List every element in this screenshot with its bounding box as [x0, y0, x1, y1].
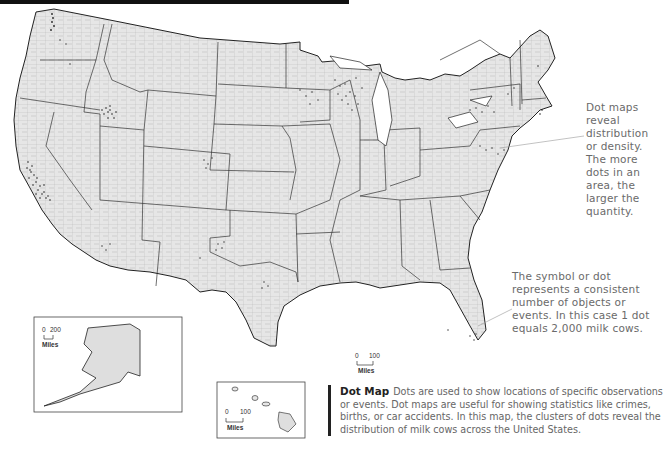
callout-1-leader [500, 136, 584, 148]
hawaii-scale-unit: Miles [227, 424, 243, 431]
conus-scale-end: 100 [369, 352, 380, 359]
hawaii-scale-end: 100 [240, 408, 251, 415]
caption-title: Dot Map [340, 385, 389, 397]
callout-density: Dot maps reveal distribution or density.… [586, 101, 656, 218]
alaska-scale-end: 200 [50, 326, 61, 333]
alaska-scale-unit: Miles [42, 341, 58, 348]
hawaii-scale-start: 0 [225, 408, 229, 415]
conus-landmass [14, 9, 555, 346]
conus-scale-unit: Miles [358, 367, 374, 374]
callout-dot-value: The symbol or dot represents a consisten… [512, 270, 657, 335]
alaska-scale-start: 0 [42, 326, 46, 333]
map-caption: Dot MapDots are used to show locations o… [328, 385, 665, 436]
conus-scale-start: 0 [355, 352, 359, 359]
conus-scale-bar [357, 361, 373, 365]
